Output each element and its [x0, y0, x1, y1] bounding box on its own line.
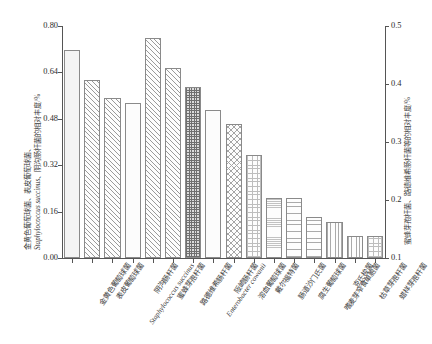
- y-tick-right: [385, 142, 389, 143]
- bar: [104, 98, 120, 258]
- y-tick-label-left: 0.00: [18, 253, 58, 262]
- y-tick-right: [385, 200, 389, 201]
- x-axis-labels: 金黄色葡萄球菌表皮葡萄球菌Staphylococcus succinus阴沟肠杆…: [0, 262, 432, 344]
- y-tick-label-left: 0.16: [18, 207, 58, 216]
- bar: [205, 110, 221, 258]
- y-tick-label-left: 0.64: [18, 67, 58, 76]
- y-axis-right-title: 蜜蜂芽孢杆菌、路德维希肠杆菌等的相对丰度/%: [404, 97, 414, 245]
- bar: [64, 50, 80, 258]
- bar: [347, 236, 363, 258]
- y-tick-label-right: 0.5: [391, 21, 401, 30]
- y-tick-right: [385, 84, 389, 85]
- bar: [125, 103, 141, 258]
- x-axis-line: [62, 258, 386, 259]
- bar: [306, 217, 322, 258]
- bar: [266, 198, 282, 258]
- bar: [246, 155, 262, 258]
- bar: [286, 198, 302, 258]
- y-tick-label-right: 0.3: [391, 137, 401, 146]
- y-tick-right: [385, 26, 389, 27]
- bar: [185, 87, 201, 258]
- bar: [145, 38, 161, 258]
- y-tick-label-left: 0.48: [18, 114, 58, 123]
- bacteria-relative-abundance-chart: 金黄色葡萄球菌、表皮葡萄球菌、 Staphylococcus succinus、…: [0, 0, 432, 344]
- y-tick-label-left: 0.32: [18, 160, 58, 169]
- bar: [226, 124, 242, 258]
- y-tick-label-right: 0.1: [391, 253, 401, 262]
- bar: [165, 68, 181, 258]
- bar: [84, 80, 100, 258]
- y-tick-left: [58, 258, 62, 259]
- bar-series: [62, 26, 385, 258]
- y-tick-label-right: 0.2: [391, 195, 401, 204]
- y-tick-right: [385, 258, 389, 259]
- bar: [367, 236, 383, 258]
- y-tick-label-right: 0.4: [391, 79, 401, 88]
- bar: [326, 222, 342, 258]
- y-tick-label-left: 0.80: [18, 21, 58, 30]
